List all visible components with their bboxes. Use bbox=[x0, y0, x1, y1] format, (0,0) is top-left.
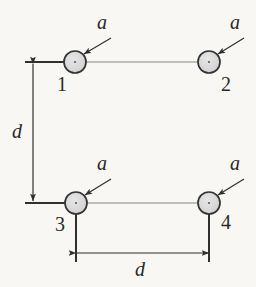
acceleration-label-p3: a bbox=[97, 153, 107, 173]
particle-label-3: 3 bbox=[55, 214, 65, 234]
particles bbox=[64, 51, 220, 214]
acceleration-arrow-p4 bbox=[218, 179, 244, 195]
particle-label-2: 2 bbox=[221, 74, 231, 94]
acceleration-arrow-p1 bbox=[84, 38, 111, 54]
particle-label-4: 4 bbox=[221, 212, 231, 232]
particle-3 bbox=[65, 192, 87, 214]
acceleration-label-p4: a bbox=[230, 153, 240, 173]
particle-2 bbox=[198, 51, 220, 73]
particle-4 bbox=[198, 192, 220, 214]
acceleration-arrow-p2 bbox=[218, 38, 244, 54]
acceleration-label-p1: a bbox=[97, 12, 107, 32]
diagram-canvas bbox=[0, 0, 256, 287]
particle-label-1: 1 bbox=[57, 74, 67, 94]
figure-container: 1 2 3 4 a a a a d d bbox=[0, 0, 256, 287]
dimension-label-horizontal: d bbox=[135, 259, 145, 279]
dimension-label-vertical: d bbox=[12, 121, 22, 141]
acceleration-arrow-p3 bbox=[85, 179, 111, 195]
connector-rods bbox=[86, 62, 198, 203]
particle-1 bbox=[64, 51, 86, 73]
acceleration-label-p2: a bbox=[230, 12, 240, 32]
extension-lines bbox=[25, 62, 209, 262]
